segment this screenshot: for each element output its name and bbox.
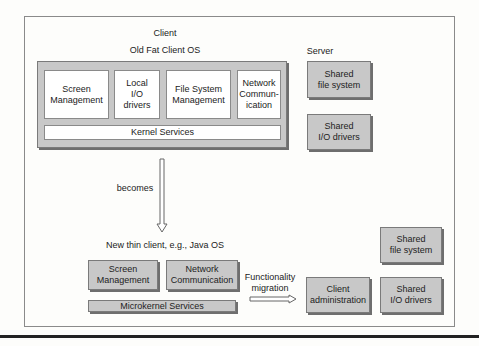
- old-local-io-drivers: Local I/O drivers: [114, 70, 160, 119]
- client-administration: Client administration: [306, 277, 370, 313]
- server-shared-file-system: Shared file system: [307, 61, 371, 98]
- old-os-label: Old Fat Client OS: [110, 45, 220, 56]
- server-label: Server: [300, 46, 340, 57]
- old-network-communication: Network Commun- ication: [237, 70, 281, 119]
- new-shared-io-drivers: Shared I/O drivers: [380, 277, 442, 313]
- old-file-system-management: File System Management: [166, 70, 231, 119]
- new-client-label: New thin client, e.g., Java OS: [95, 240, 235, 251]
- new-screen-management: Screen Management: [88, 260, 158, 290]
- migration-label: Functionality migration: [240, 272, 300, 294]
- old-screen-management: Screen Management: [44, 70, 109, 119]
- new-network-communication: Network Communication: [166, 260, 238, 290]
- microkernel-services: Microkernel Services: [88, 300, 236, 312]
- becomes-label: becomes: [115, 183, 155, 194]
- client-title: Client: [140, 28, 190, 39]
- server-shared-io-drivers: Shared I/O drivers: [307, 114, 371, 150]
- becomes-arrow-icon: [155, 158, 169, 234]
- new-shared-file-system: Shared file system: [380, 227, 442, 263]
- page-rule: [0, 335, 479, 338]
- kernel-services: Kernel Services: [44, 125, 281, 140]
- migration-arrow-icon: [249, 294, 297, 304]
